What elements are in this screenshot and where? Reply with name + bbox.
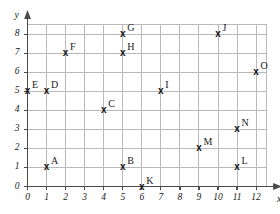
x-tick-label: 10 [213,193,223,203]
y-tick-label: 1 [15,163,20,173]
data-point-label: D [51,80,58,90]
data-point-marker: x [234,124,240,134]
data-point-label: N [242,118,249,128]
data-point-label: M [203,137,212,147]
data-point-marker: x [25,86,31,96]
y-tick-label: 8 [15,29,20,39]
data-point-marker: x [63,48,69,58]
x-tick-label: 9 [197,193,202,203]
data-point-marker: x [120,162,126,172]
axis-tick-marks [24,34,256,190]
data-point-label: J [223,23,227,33]
data-point-marker: x [44,162,50,172]
data-point-marker: x [158,86,164,96]
y-tick-label: 7 [15,48,20,58]
data-point-label: G [127,23,134,33]
y-tick-label: 5 [15,87,20,97]
y-tick-label: 0 [15,182,20,192]
coordinate-plane-figure: 0123456789101112 012345678 x y xAxBxCxDx… [0,0,280,214]
y-axis-label: y [15,10,19,20]
x-tick-label: 0 [25,193,30,203]
data-point-marker: x [196,143,202,153]
y-tick-label: 6 [15,67,20,77]
x-tick-label: 2 [63,193,68,203]
data-point-marker: x [101,105,107,115]
data-point-label: A [51,156,58,166]
data-point-label: I [165,80,168,90]
data-point-label: E [32,80,38,90]
data-point-label: O [261,61,268,71]
data-point-label: B [127,156,134,166]
data-point-label: H [127,42,134,52]
x-tick-label: 8 [178,193,183,203]
data-point-marker: x [120,48,126,58]
data-point-marker: x [253,67,259,77]
data-point-marker: x [234,162,240,172]
y-tick-label: 2 [15,144,20,154]
data-point-label: C [108,99,115,109]
x-tick-label: 1 [44,193,49,203]
data-point-marker: x [120,29,126,39]
data-point-label: F [70,42,76,52]
x-axis-arrowhead [273,183,280,190]
x-tick-label: 5 [120,193,125,203]
data-point-marker: x [44,86,50,96]
x-tick-label: 12 [251,193,261,203]
data-point-marker: x [215,29,221,39]
data-point-marker: x [139,182,145,192]
x-tick-label: 3 [82,193,87,203]
y-tick-label: 3 [15,125,20,135]
x-tick-label: 6 [139,193,144,203]
x-tick-label: 7 [158,193,163,203]
y-tick-label: 4 [15,106,20,116]
x-axis-label: x [277,194,280,204]
data-point-label: L [242,156,248,166]
x-tick-label: 4 [101,193,106,203]
data-point-label: K [146,176,153,186]
x-tick-label: 11 [233,193,242,203]
y-axis-arrowhead [24,10,31,19]
